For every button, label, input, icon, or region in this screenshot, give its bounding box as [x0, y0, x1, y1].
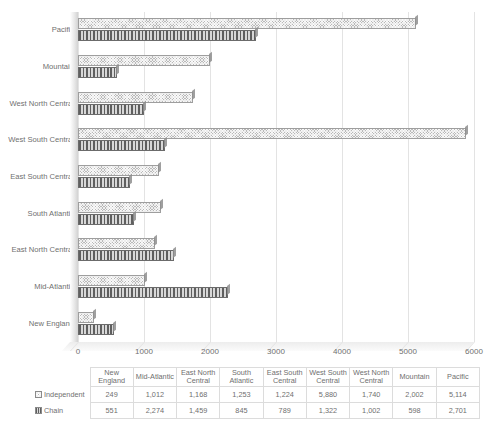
x-tick-label-6000: 6000	[451, 347, 484, 356]
table-column-header: Pacific	[436, 368, 479, 387]
gridline-4000	[342, 12, 343, 342]
y-axis-label-east-north-central: East North Central	[0, 245, 74, 254]
legend-swatch-icon-chain	[35, 407, 42, 414]
table-cell: 249	[90, 387, 133, 403]
bar-chart-with-data-table[interactable]: New EnglandMid-AtlanticEast North Centra…	[0, 0, 484, 427]
table-cell: 5,880	[306, 387, 349, 403]
bar-chain-west-south-central[interactable]	[78, 140, 165, 151]
table-column-header: West North Central	[350, 368, 393, 387]
gridline-6000	[474, 12, 475, 342]
bar-independent-south-atlantic[interactable]	[78, 202, 161, 213]
bar-independent-east-south-central[interactable]	[78, 165, 159, 176]
y-axis-label-west-south-central: West South Central	[0, 135, 74, 144]
bar-chain-west-north-central[interactable]	[78, 104, 144, 115]
gridline-3000	[276, 12, 277, 342]
bar-independent-mid-atlantic[interactable]	[78, 275, 145, 286]
x-axis-tick-labels: 0100020003000400050006000	[78, 347, 478, 361]
y-axis-label-south-atlantic: South Atlantic	[0, 209, 74, 218]
table-header-row: New EnglandMid-AtlanticEast North Centra…	[34, 368, 480, 387]
bar-independent-west-south-central[interactable]	[78, 128, 466, 139]
table-cell: 1,012	[133, 387, 176, 403]
table-cell: 598	[393, 403, 436, 419]
y-axis-category-labels: New EnglandMid-AtlanticEast North Centra…	[0, 12, 74, 342]
table-cell: 1,224	[263, 387, 306, 403]
table-cell: 551	[90, 403, 133, 419]
x-tick-label-1000: 1000	[121, 347, 167, 356]
table-cell: 845	[220, 403, 263, 419]
bar-chain-mid-atlantic[interactable]	[78, 287, 228, 298]
x-tick-label-2000: 2000	[187, 347, 233, 356]
legend-label: Independent	[44, 390, 85, 399]
bar-chain-south-atlantic[interactable]	[78, 214, 134, 225]
bar-independent-new-england[interactable]	[78, 312, 94, 323]
table-column-header: New England	[90, 368, 133, 387]
x-tick-label-0: 0	[55, 347, 101, 356]
bar-independent-mountain[interactable]	[78, 55, 210, 66]
table-cell: 1,459	[177, 403, 220, 419]
table-cell: 1,253	[220, 387, 263, 403]
chart-title	[0, 0, 484, 6]
table-cell: 1,002	[350, 403, 393, 419]
y-axis-label-pacific: Pacific	[0, 25, 74, 34]
table-cell: 2,002	[393, 387, 436, 403]
bar-chain-pacific[interactable]	[78, 30, 256, 41]
table-cell: 5,114	[436, 387, 479, 403]
table-column-header: East South Central	[263, 368, 306, 387]
legend-row-independent: Independent	[34, 387, 90, 403]
bar-independent-west-north-central[interactable]	[78, 92, 193, 103]
y-axis-label-west-north-central: West North Central	[0, 99, 74, 108]
table-column-header: Mid-Atlantic	[133, 368, 176, 387]
gridline-5000	[408, 12, 409, 342]
table-column-header: South Atlantic	[220, 368, 263, 387]
y-axis-label-mountain: Mountain	[0, 62, 74, 71]
x-tick-label-5000: 5000	[385, 347, 431, 356]
bar-independent-pacific[interactable]	[78, 18, 416, 29]
chart-left-wall	[70, 12, 78, 342]
table-cell: 789	[263, 403, 306, 419]
legend-swatch-icon-independent	[35, 391, 42, 398]
x-tick-label-3000: 3000	[253, 347, 299, 356]
bar-chain-new-england[interactable]	[78, 324, 114, 335]
y-axis-label-mid-atlantic: Mid-Atlantic	[0, 282, 74, 291]
table-row: Independent2491,0121,1681,2531,2245,8801…	[34, 387, 480, 403]
bar-chain-east-south-central[interactable]	[78, 177, 130, 188]
y-axis-label-east-south-central: East South Central	[0, 172, 74, 181]
table-cell: 1,168	[177, 387, 220, 403]
table-column-header: West South Central	[306, 368, 349, 387]
table-column-header: East North Central	[177, 368, 220, 387]
table-cell: 2,701	[436, 403, 479, 419]
table-cell: 2,274	[133, 403, 176, 419]
table-column-header: Mountain	[393, 368, 436, 387]
legend-row-chain: Chain	[34, 403, 90, 419]
legend-label: Chain	[44, 406, 63, 415]
table-cell: 1,740	[350, 387, 393, 403]
table-row: Chain5512,2741,4598457891,3221,0025982,7…	[34, 403, 480, 419]
bar-chain-mountain[interactable]	[78, 67, 117, 78]
table-corner-cell	[34, 368, 90, 387]
plot-area	[78, 12, 474, 342]
table-cell: 1,322	[306, 403, 349, 419]
chart-data-table: New EnglandMid-AtlanticEast North Centra…	[34, 367, 480, 419]
bar-chain-east-north-central[interactable]	[78, 250, 174, 261]
x-tick-label-4000: 4000	[319, 347, 365, 356]
bar-independent-east-north-central[interactable]	[78, 238, 155, 249]
y-axis-label-new-england: New England	[0, 319, 74, 328]
